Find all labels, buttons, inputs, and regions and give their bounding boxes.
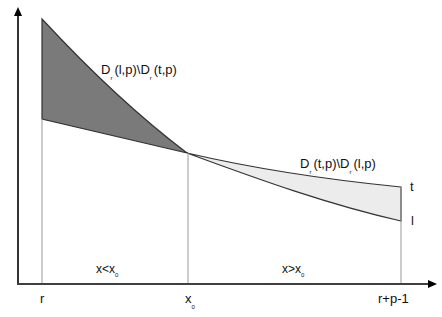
x-axis-arrow-icon	[428, 280, 437, 288]
tick-x0-label: x0	[185, 291, 196, 310]
tick-end-label: r+p-1	[378, 291, 409, 306]
y-axis-arrow-icon	[14, 7, 22, 16]
curve-t-label: t	[410, 179, 414, 194]
curve-l-label: l	[411, 213, 414, 228]
light-region-label: Dr(t,p)\Dr(l,p)	[300, 156, 376, 175]
region-left-label: x<x0	[96, 262, 119, 278]
diagram-canvas: Dr(l,p)\Dr(t,p) Dr(t,p)\Dr(l,p) t l x<x0…	[0, 0, 442, 317]
tick-r-label: r	[40, 291, 45, 306]
region-right-label: x>x0	[282, 262, 305, 278]
dark-region	[42, 19, 187, 153]
dark-region-label: Dr(l,p)\Dr(t,p)	[101, 62, 177, 81]
